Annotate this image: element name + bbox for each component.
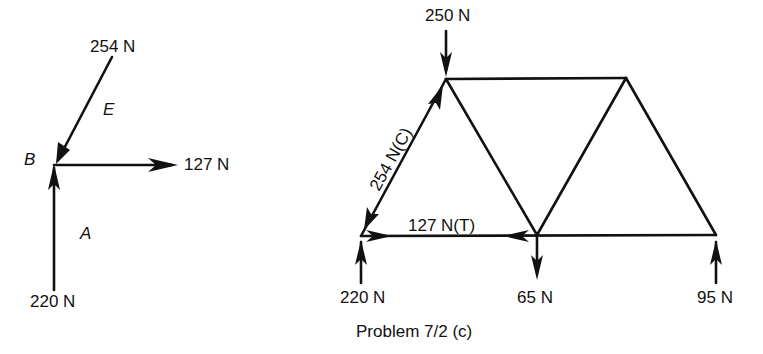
load-label-65: 65 N: [517, 288, 553, 307]
member-right-diagonal: [626, 78, 716, 235]
diagram-canvas: 254 N 127 N 220 N B E A 250 N 254 N(C): [0, 0, 763, 354]
region-label-a: A: [79, 224, 91, 243]
member-bottom-chord: [361, 235, 716, 236]
force-label-254: 254 N: [90, 37, 135, 56]
reaction-label-95: 95 N: [697, 288, 733, 307]
joint-label-b: B: [24, 150, 35, 169]
truss: 250 N 254 N(C) 127 N(T) 220 N 65 N 95 N: [340, 6, 733, 307]
force-label-220: 220 N: [30, 292, 75, 311]
member-inner-diagonal-2: [537, 78, 626, 235]
arrowhead-icon: [56, 142, 70, 164]
member-label-254c: 254 N(C): [366, 124, 416, 194]
member-top-chord: [446, 78, 626, 79]
member-inner-diagonal-1: [446, 79, 537, 235]
load-label-250: 250 N: [425, 6, 470, 25]
region-label-e: E: [103, 100, 115, 119]
member-label-127t: 127 N(T): [408, 216, 475, 235]
force-label-127: 127 N: [184, 155, 229, 174]
arrowhead-icon: [364, 207, 379, 230]
reaction-label-220: 220 N: [340, 288, 385, 307]
free-body-diagram-joint-b: 254 N 127 N 220 N B E A: [24, 37, 229, 311]
figure-caption: Problem 7/2 (c): [356, 322, 472, 341]
